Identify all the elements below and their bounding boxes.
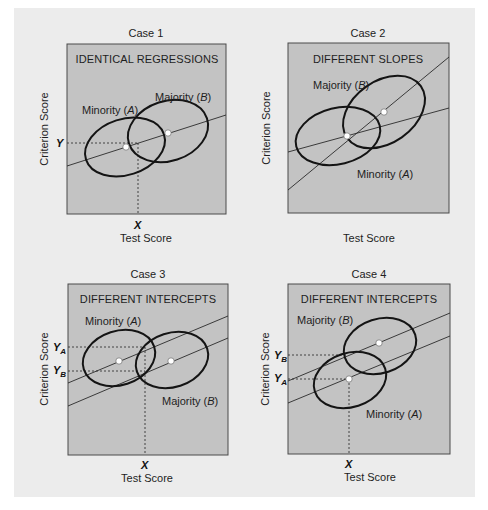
majority-label: Majority (B): [313, 79, 369, 91]
majority-label: Majority (B): [155, 91, 211, 103]
x-axis-label: Test Score: [343, 232, 395, 244]
y-axis-label: Criterion Score: [38, 332, 50, 405]
case-title: Case 1: [129, 27, 164, 39]
y-marker: Y: [56, 137, 65, 149]
minority-label: Minority (A): [85, 315, 141, 327]
majority-label: Majority (B): [297, 314, 353, 326]
x-marker: X: [133, 219, 142, 231]
minority-mean-dot: [344, 133, 350, 139]
panel-case-2: Case 2 DIFFERENT SLOPES Majority (B) Min…: [260, 27, 449, 244]
majority-mean-dot: [165, 130, 171, 136]
y-axis-label: Criterion Score: [38, 92, 50, 165]
plot-area: [288, 43, 449, 213]
minority-label: Minority (A): [357, 168, 413, 180]
majority-mean-dot: [381, 109, 387, 115]
plot-area: [288, 284, 450, 454]
panel-case-4: Case 4 DIFFERENT INTERCEPTS Majority (B)…: [259, 268, 450, 483]
case-title: Case 4: [352, 268, 387, 280]
x-axis-label: Test Score: [120, 232, 172, 244]
x-axis-label: Test Score: [344, 471, 396, 483]
case-title: Case 3: [131, 268, 166, 280]
panel-heading: DIFFERENT INTERCEPTS: [301, 293, 437, 305]
x-marker: X: [140, 459, 149, 471]
panel-heading: IDENTICAL REGRESSIONS: [76, 53, 219, 65]
minority-label: Minority (A): [82, 104, 138, 116]
minority-mean-dot: [123, 144, 129, 150]
minority-mean-dot: [116, 358, 122, 364]
plot-area: [67, 44, 226, 214]
panel-heading: DIFFERENT SLOPES: [313, 53, 423, 65]
y-a-marker: YA: [53, 341, 66, 356]
case-title: Case 2: [351, 27, 386, 39]
panel-case-1: Case 1 IDENTICAL REGRESSIONS Minority (A…: [38, 27, 226, 244]
majority-mean-dot: [168, 358, 174, 364]
majority-label: Majority (B): [162, 395, 218, 407]
majority-mean-dot: [376, 340, 382, 346]
regression-fairness-figure: Case 1 IDENTICAL REGRESSIONS Minority (A…: [0, 0, 488, 510]
y-axis-label: Criterion Score: [260, 91, 272, 164]
x-marker: X: [344, 458, 353, 470]
y-b-marker: YB: [274, 349, 287, 364]
y-a-marker: YA: [274, 372, 287, 387]
x-axis-label: Test Score: [121, 472, 173, 484]
y-axis-label: Criterion Score: [259, 332, 271, 405]
panel-heading: DIFFERENT INTERCEPTS: [80, 293, 216, 305]
panel-case-3: Case 3 DIFFERENT INTERCEPTS Minority (A)…: [38, 268, 228, 484]
minority-mean-dot: [346, 376, 352, 382]
y-b-marker: YB: [53, 364, 66, 379]
minority-label: Minority (A): [366, 408, 422, 420]
